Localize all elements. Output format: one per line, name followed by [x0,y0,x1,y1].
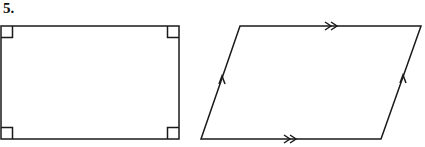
right-angle-mark-top-right [168,26,180,38]
parallelogram [201,22,421,143]
rectangle [1,26,179,139]
right-angle-mark-top-left [1,26,13,38]
right-angle-mark-bottom-left [1,128,13,140]
right-angle-mark-bottom-right [168,128,180,140]
figures-canvas [0,0,425,147]
